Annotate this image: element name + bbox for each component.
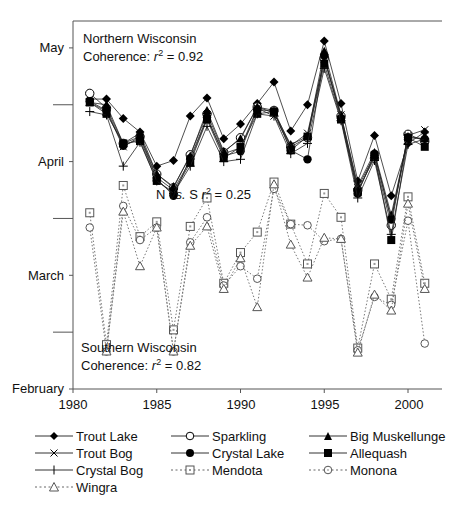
- circle-open-marker-icon: [171, 430, 209, 442]
- southern-series: [86, 178, 430, 356]
- legend-item-big-muskellunge: Big Muskellunge: [309, 428, 445, 444]
- north-title: Northern Wisconsin: [83, 31, 203, 46]
- legend-item-sparkling: Sparkling: [171, 428, 266, 444]
- x-tick-label-1995: 1995: [305, 397, 345, 412]
- series-allequash: [86, 60, 429, 244]
- north-annotation: Northern Wisconsin Coherence: r2 = 0.92: [83, 31, 203, 64]
- circle-filled-marker-icon: [171, 447, 209, 459]
- north-vs-south-annotation: N vs. S r2 = 0.25: [156, 184, 251, 202]
- legend-item-crystal-bog: Crystal Bog: [35, 462, 143, 478]
- chart-axes: [53, 21, 442, 393]
- northern-series: [85, 37, 429, 244]
- legend-item-allequash: Allequash: [309, 445, 407, 461]
- south-coherence: Coherence: r2 = 0.82: [81, 355, 201, 373]
- square-filled-marker-icon: [309, 447, 347, 459]
- x-tick-label-1980: 1980: [53, 397, 93, 412]
- legend-item-mendota: Mendota: [171, 462, 263, 478]
- y-tick-label-april: April: [0, 154, 64, 169]
- diamond-filled-marker-icon: [35, 430, 73, 442]
- north-coherence: Coherence: r2 = 0.92: [83, 46, 203, 64]
- triangle-open-marker-icon: [35, 481, 73, 493]
- y-tick-label-may: May: [0, 40, 64, 55]
- triangle-filled-marker-icon: [309, 430, 347, 442]
- legend-item-trout-bog: Trout Bog: [35, 445, 133, 461]
- square-open-marker-icon: [171, 464, 209, 476]
- x-tick-label-1990: 1990: [221, 397, 261, 412]
- legend-item-crystal-lake: Crystal Lake: [171, 445, 284, 461]
- legend-item-monona: Monona: [309, 462, 397, 478]
- x-tick-label-2000: 2000: [389, 397, 429, 412]
- south-annotation: Southern Wisconsin Coherence: r2 = 0.82: [81, 340, 201, 373]
- south-title: Southern Wisconsin: [81, 340, 201, 355]
- series-mendota: [86, 178, 429, 352]
- plus-marker-icon: [35, 464, 73, 476]
- x-tick-label-1985: 1985: [137, 397, 177, 412]
- circle-open-dotted-marker-icon: [309, 464, 347, 476]
- y-tick-label-february: February: [0, 381, 64, 396]
- y-tick-label-march: March: [0, 268, 64, 283]
- x-marker-icon: [35, 447, 73, 459]
- legend-item-wingra: Wingra: [35, 479, 117, 495]
- legend-item-trout-lake: Trout Lake: [35, 428, 138, 444]
